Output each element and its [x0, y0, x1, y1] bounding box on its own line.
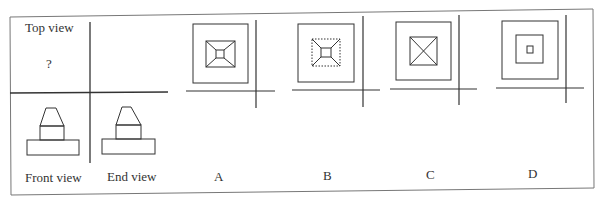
end-view-drawing	[102, 107, 155, 154]
option-c-label[interactable]: C	[426, 167, 435, 183]
grid-horizontal-divider	[10, 92, 168, 93]
outer-frame	[10, 9, 594, 195]
top-view-unknown-mark: ?	[46, 56, 52, 72]
option-b-drawing[interactable]	[292, 16, 380, 107]
end-view-label: End view	[107, 169, 156, 185]
option-d-label[interactable]: D	[528, 166, 537, 182]
option-b-label[interactable]: B	[323, 168, 332, 184]
option-c-drawing[interactable]	[390, 15, 477, 105]
front-view-drawing	[27, 108, 79, 155]
option-a-label[interactable]: A	[214, 169, 223, 185]
orthographic-projection-question: Top view ? Front view End view A B C D	[0, 0, 604, 199]
top-view-label: Top view	[25, 20, 74, 36]
diagram-canvas	[0, 0, 604, 199]
front-view-label: Front view	[25, 170, 82, 186]
option-a-drawing[interactable]	[186, 20, 275, 108]
option-d-drawing[interactable]	[496, 15, 584, 103]
